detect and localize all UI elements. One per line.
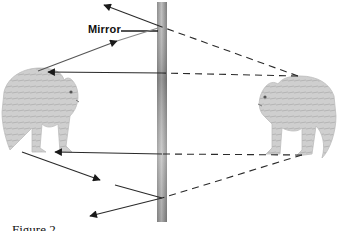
ray-dashed-horizontal-upper <box>162 73 298 76</box>
figure-caption: Figure 2 <box>12 222 56 231</box>
ray-solid-lower-reflected <box>90 198 162 216</box>
ray-virtual-extension <box>117 28 158 41</box>
mirror-label: Mirror <box>88 23 121 35</box>
ray-solid-virtual-lower <box>22 152 100 180</box>
ray-dashed-upper <box>162 27 298 76</box>
ray-solid-virtual-upper <box>38 41 117 71</box>
ray-dashed-horizontal-lower <box>162 154 302 155</box>
right-cat <box>258 76 336 158</box>
mirror-reflection-diagram: Mirror Figure 2 <box>0 0 338 231</box>
ray-solid-horizontal-lower <box>55 152 162 154</box>
diagram-canvas <box>0 0 338 231</box>
mirror <box>157 2 167 222</box>
left-cat-image <box>2 68 79 152</box>
ray-solid-horizontal-upper <box>48 72 162 73</box>
ray-virtual-lower-extension <box>115 185 162 198</box>
ray-dashed-lower <box>162 155 302 198</box>
